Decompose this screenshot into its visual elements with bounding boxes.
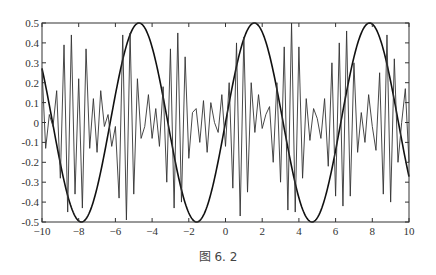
y-tick-label: -0.4 (22, 196, 40, 208)
x-tick-label: −2 (183, 225, 195, 237)
figure-caption: 图 6. 2 (0, 247, 436, 264)
y-tick-label: 0.2 (25, 77, 39, 89)
x-tick-label: 4 (296, 225, 302, 237)
y-tick-label: -0.5 (22, 216, 40, 228)
y-axis-tick-labels: -0.5-0.4-0.3-0.2-0.100.10.20.30.40.5 (22, 17, 40, 228)
y-tick-label: -0.3 (22, 176, 40, 188)
series-envelope (42, 23, 409, 222)
y-tick-label: 0.1 (25, 97, 39, 109)
x-tick-label: −8 (73, 225, 85, 237)
y-tick-label: 0.5 (25, 17, 39, 29)
x-tick-label: −4 (146, 225, 158, 237)
y-tick-label: -0.2 (22, 156, 39, 168)
x-tick-label: 10 (404, 225, 416, 237)
line-chart: −10−8−6−4−20246810 -0.5-0.4-0.3-0.2-0.10… (0, 0, 436, 245)
y-tick-label: -0.1 (22, 136, 39, 148)
x-tick-label: 0 (223, 225, 229, 237)
y-tick-label: 0 (34, 117, 40, 129)
x-tick-label: 8 (370, 225, 376, 237)
plot-series-group (42, 23, 409, 222)
x-tick-label: 6 (333, 225, 339, 237)
y-tick-label: 0.4 (25, 37, 39, 49)
x-tick-label: −6 (110, 225, 122, 237)
y-tick-label: 0.3 (25, 57, 39, 69)
x-axis-tick-labels: −10−8−6−4−20246810 (33, 225, 415, 237)
x-tick-label: 2 (259, 225, 265, 237)
